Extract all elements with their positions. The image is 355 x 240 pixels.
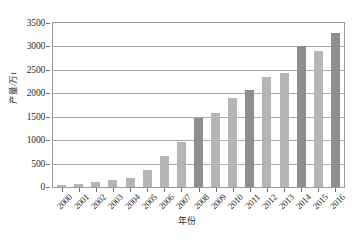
bar-chart: 0500100015002000250030003500 产量/万t 20002… bbox=[0, 0, 355, 240]
x-tick-label: 2016 bbox=[328, 192, 347, 211]
x-tick-label: 2010 bbox=[226, 192, 245, 211]
x-tick-label: 2008 bbox=[191, 192, 210, 211]
bar bbox=[177, 142, 186, 187]
y-tick-mark bbox=[46, 23, 50, 24]
x-tick-label: 2014 bbox=[294, 192, 313, 211]
x-tick-label: 2001 bbox=[72, 192, 91, 211]
bar bbox=[74, 184, 83, 187]
y-tick-mark bbox=[46, 140, 50, 141]
y-tick-label: 500 bbox=[31, 159, 45, 169]
y-tick-mark bbox=[46, 117, 50, 118]
y-tick-label: 2000 bbox=[27, 88, 45, 98]
x-tick-label: 2012 bbox=[260, 192, 279, 211]
x-tick-label: 2013 bbox=[277, 192, 296, 211]
bar bbox=[91, 182, 100, 187]
y-tick-label: 0 bbox=[40, 182, 45, 192]
x-tick-label: 2006 bbox=[157, 192, 176, 211]
bar bbox=[108, 180, 117, 187]
x-tick-label: 2015 bbox=[311, 192, 330, 211]
x-tick-label: 2002 bbox=[89, 192, 108, 211]
bar bbox=[143, 170, 152, 187]
bars-group bbox=[53, 23, 344, 187]
x-tick-label: 2004 bbox=[123, 192, 142, 211]
y-tick-label: 1000 bbox=[27, 135, 45, 145]
x-tick-label: 2009 bbox=[208, 192, 227, 211]
bar bbox=[314, 51, 323, 187]
y-tick-mark bbox=[46, 187, 50, 188]
bar bbox=[211, 113, 220, 187]
y-tick-label: 1500 bbox=[27, 112, 45, 122]
y-axis-title: 产量/万t bbox=[6, 53, 18, 123]
x-tick-label: 2011 bbox=[243, 192, 262, 211]
y-tick-mark bbox=[46, 70, 50, 71]
bar bbox=[160, 156, 169, 187]
y-tick-mark bbox=[46, 164, 50, 165]
x-tick-label: 2003 bbox=[106, 192, 125, 211]
bar bbox=[126, 178, 135, 187]
x-axis-title: 年份 bbox=[178, 214, 196, 227]
x-tick-label: 2007 bbox=[174, 192, 193, 211]
bar bbox=[297, 46, 306, 187]
bar bbox=[228, 98, 237, 187]
x-tick-label: 2000 bbox=[54, 192, 73, 211]
bar bbox=[245, 90, 254, 187]
y-tick-label: 3500 bbox=[27, 18, 45, 28]
bar bbox=[280, 73, 289, 187]
x-axis-labels: 2000200120022003200420052006200720082009… bbox=[53, 192, 344, 222]
y-tick-label: 2500 bbox=[27, 65, 45, 75]
bar bbox=[262, 77, 271, 187]
y-tick-label: 3000 bbox=[27, 41, 45, 51]
bar bbox=[57, 185, 66, 187]
bar bbox=[194, 118, 203, 187]
x-tick-label: 2005 bbox=[140, 192, 159, 211]
bar bbox=[331, 33, 340, 187]
y-tick-mark bbox=[46, 93, 50, 94]
y-tick-mark bbox=[46, 46, 50, 47]
